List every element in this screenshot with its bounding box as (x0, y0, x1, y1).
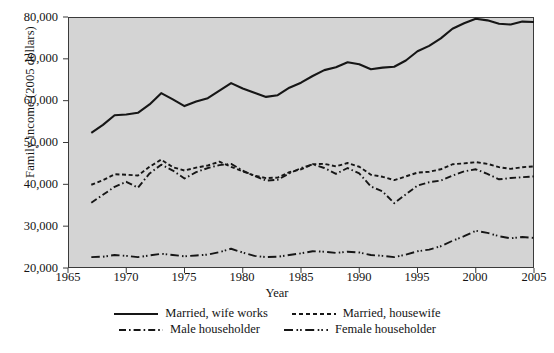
legend-swatch-dash-dot-icon (118, 325, 164, 335)
legend-entry-married-wife-works: Married, wife works (113, 306, 267, 321)
series-line-2 (91, 164, 534, 203)
legend-label-female-householder: Female householder (335, 322, 436, 337)
plot-lines (0, 0, 554, 290)
legend-entry-male-householder: Male householder (118, 322, 260, 337)
legend-label-married-wife-works: Married, wife works (165, 306, 267, 321)
legend-row-2: Male householder Female householder (0, 322, 554, 337)
data-series-group (91, 19, 534, 257)
figure: Family income (2005 dollars) 80,000 70,0… (0, 0, 554, 353)
chart-area: Family income (2005 dollars) 80,000 70,0… (0, 0, 554, 290)
chart-legend: Married, wife works Married, housewife M… (0, 306, 554, 338)
series-line-0 (91, 19, 534, 133)
axis-ticks (63, 17, 534, 273)
series-line-1 (91, 160, 534, 185)
legend-entry-female-householder: Female householder (283, 322, 436, 337)
legend-label-male-householder: Male householder (170, 322, 260, 337)
legend-swatch-dashed-icon (291, 309, 337, 319)
series-line-3 (91, 231, 534, 257)
legend-swatch-solid-icon (113, 309, 159, 319)
legend-swatch-long-dash-dot-icon (283, 325, 329, 335)
legend-entry-married-housewife: Married, housewife (291, 306, 441, 321)
legend-row-1: Married, wife works Married, housewife (0, 306, 554, 321)
x-axis-label: Year (0, 286, 554, 301)
legend-label-married-housewife: Married, housewife (343, 306, 441, 321)
